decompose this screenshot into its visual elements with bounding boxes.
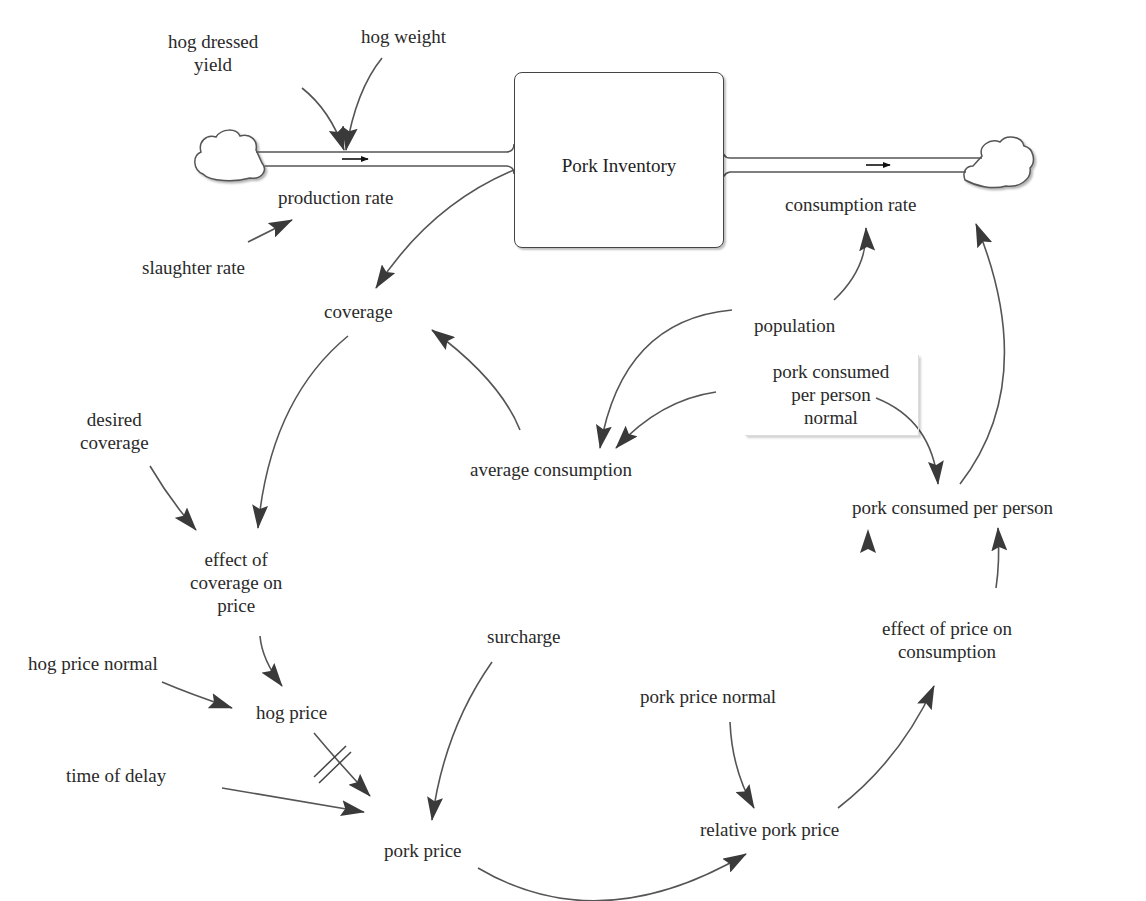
var-time-of-delay[interactable]: time of delay [66,764,166,787]
var-hog-weight[interactable]: hog weight [361,25,446,48]
link-effectprice-pcpp [860,530,868,588]
link-coverage-effect [258,336,348,528]
flow-consumption-rate[interactable]: consumption rate [785,193,916,216]
consumption-flow-pipe[interactable] [722,146,982,186]
stock-pork-inventory[interactable]: Pork Inventory [514,72,724,248]
var-pork-price[interactable]: pork price [384,839,462,862]
var-slaughter-rate[interactable]: slaughter rate [142,256,245,279]
link-inventory-coverage [376,170,514,288]
delay-mark-icon [314,746,351,783]
link-slaughter-rate [248,220,292,242]
link-population-consumptionrate [834,228,866,300]
link-surcharge-porkprice [432,662,492,820]
var-pork-consumed-per-person-normal[interactable]: pork consumed per person normal [746,360,916,429]
link-pcpp-consumptionrate [960,224,1004,484]
flow-production-rate[interactable]: production rate [278,186,394,209]
var-hog-price-normal[interactable]: hog price normal [28,652,158,675]
link-hogprice-porkprice-delay [314,733,370,796]
var-effect-of-price-on-consumption[interactable]: effect of price on consumption [882,617,1012,663]
link-hogpricenormal-hogprice [162,682,232,708]
link-population-avgcons [600,310,732,448]
var-coverage[interactable]: coverage [324,300,393,323]
sink-cloud-icon [964,137,1033,188]
var-effect-of-coverage-on-price[interactable]: effect of coverage on price [190,548,282,617]
var-average-consumption[interactable]: average consumption [470,458,632,481]
var-relative-pork-price[interactable]: relative pork price [700,818,839,841]
link-timeofdelay-porkprice [222,788,364,812]
var-desired-coverage[interactable]: desired coverage [80,408,149,454]
link-porkpricenormal-relative [730,722,754,808]
link-avgcons-coverage [432,330,520,430]
link-porkprice-relative [478,854,746,901]
stock-label: Pork Inventory [515,155,723,177]
source-cloud-icon [195,130,265,181]
production-flow-pipe[interactable] [256,144,514,174]
var-pork-price-normal[interactable]: pork price normal [640,685,776,708]
link-relative-effectprice [838,686,934,808]
var-surcharge[interactable]: surcharge [487,625,561,648]
var-hog-dressed-yield[interactable]: hog dressed yield [168,30,258,76]
link-pcppn-avgcons [616,392,716,448]
var-population[interactable]: population [754,314,835,337]
link-desired-effect [150,466,196,530]
var-pork-consumed-per-person[interactable]: pork consumed per person [852,496,1053,519]
var-hog-price[interactable]: hog price [256,701,327,724]
link-hog-dressed-yield [302,88,344,150]
link-hog-weight [346,58,382,150]
